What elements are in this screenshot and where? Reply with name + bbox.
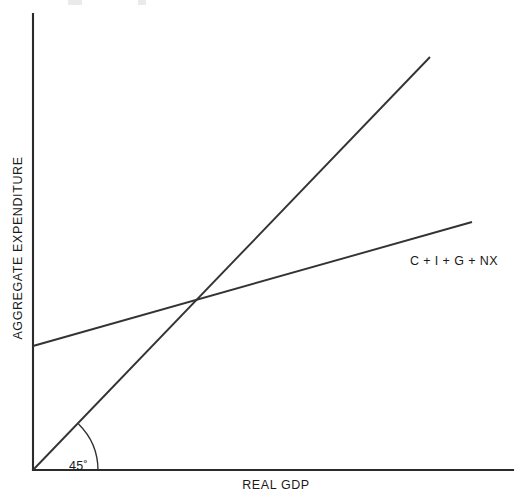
angle-label-45-degree: 45˚ — [69, 459, 88, 473]
reference-line-45-degree — [33, 57, 430, 470]
x-axis-title: REAL GDP — [242, 478, 310, 492]
y-axis-title: AGGREGATE EXPENDITURE — [11, 156, 25, 339]
chart-canvas: AGGREGATE EXPENDITURE REAL GDP C + I + G… — [0, 0, 524, 499]
keynesian-cross-figure: AGGREGATE EXPENDITURE REAL GDP C + I + G… — [0, 0, 524, 499]
aggregate-expenditure-line-label: C + I + G + NX — [410, 254, 498, 268]
